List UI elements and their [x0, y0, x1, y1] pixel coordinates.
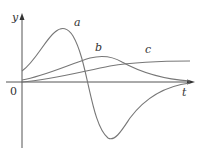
y-axis-arrow-icon [20, 13, 25, 20]
origin-label: 0 [10, 86, 17, 97]
y-axis-label: y [12, 12, 18, 23]
t-axis-label: t [182, 87, 186, 98]
curve-c-label: c [145, 44, 151, 55]
curve-c [22, 61, 190, 82]
curve-b [22, 56, 190, 81]
curve-b-label: b [95, 42, 102, 53]
curve-a [22, 29, 190, 139]
curve-a-label: a [74, 17, 81, 28]
graph-canvas [0, 0, 200, 152]
